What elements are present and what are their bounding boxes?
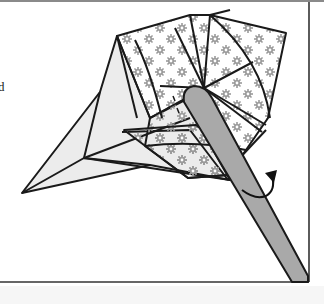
origami-diagram — [0, 0, 324, 304]
